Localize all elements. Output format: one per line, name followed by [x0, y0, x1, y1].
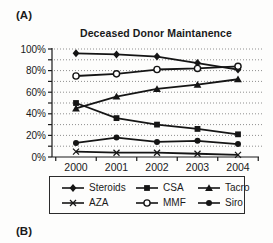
x-tick-label: 2000 — [64, 161, 88, 173]
legend-item-steroids: Steroids — [61, 182, 135, 194]
y-tick-label: 80% — [26, 65, 46, 76]
legend-label: Siro — [225, 197, 243, 208]
line-plot: 0%20%40%60%80%100%20002001200220032004 — [0, 40, 273, 176]
x-tick-label: 2004 — [226, 161, 250, 173]
y-tick-label: 40% — [26, 108, 46, 119]
legend-label: MMF — [163, 197, 186, 208]
legend-item-siro: Siro — [197, 197, 247, 209]
y-tick-label: 100% — [20, 44, 46, 55]
y-tick-label: 0% — [32, 152, 47, 163]
y-tick-label: 20% — [26, 130, 46, 141]
legend-label: AZA — [89, 197, 108, 208]
y-tick-label: 60% — [26, 87, 46, 98]
legend-marker-circle-filled-icon — [197, 197, 221, 209]
legend-label: Tacro — [225, 182, 249, 193]
x-tick-label: 2003 — [186, 161, 210, 173]
chart-title: Deceased Donor Maintanence — [40, 27, 272, 39]
legend-label: Steroids — [89, 182, 126, 193]
series-line-tacro — [76, 79, 238, 108]
legend-marker-triangle-icon — [197, 182, 221, 194]
legend-marker-square-icon — [135, 182, 159, 194]
legend-marker-circle-open-icon — [135, 197, 159, 209]
legend-item-tacro: Tacro — [197, 182, 247, 194]
legend-item-mmf: MMF — [135, 197, 197, 209]
x-tick-label: 2002 — [145, 161, 169, 173]
legend-marker-diamond-icon — [61, 182, 85, 194]
legend-item-aza: AZA — [61, 197, 135, 209]
panel-label-a: (A) — [16, 9, 32, 21]
legend-item-csa: CSA — [135, 182, 197, 194]
panel-label-b: (B) — [16, 225, 32, 237]
legend-marker-x-icon — [61, 197, 85, 209]
series-line-csa — [76, 103, 238, 134]
chart-legend: SteroidsCSATacroAZAMMFSiro — [49, 176, 245, 214]
legend-label: CSA — [163, 182, 184, 193]
x-tick-label: 2001 — [105, 161, 129, 173]
